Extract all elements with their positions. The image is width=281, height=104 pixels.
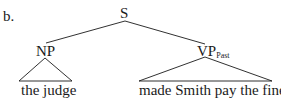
node-vp-label: VP: [197, 43, 216, 59]
np-yield: the judge: [21, 83, 76, 98]
np-triangle: [19, 58, 72, 81]
branch-s-vp: [125, 21, 205, 44]
vp-yield: made Smith pay the fines: [139, 83, 281, 98]
node-s: S: [120, 6, 128, 21]
node-vp: VPPast: [197, 44, 230, 63]
node-vp-subscript: Past: [216, 51, 229, 60]
node-np: NP: [36, 44, 55, 59]
node-np-label: NP: [36, 43, 55, 59]
branch-s-np: [46, 21, 125, 43]
